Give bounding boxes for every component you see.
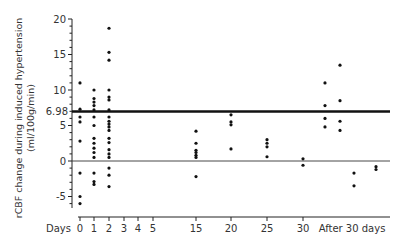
data-point xyxy=(194,151,197,154)
data-point xyxy=(92,183,95,186)
data-point xyxy=(265,138,268,141)
data-point xyxy=(107,185,110,188)
x-tick-label: 4 xyxy=(135,223,141,234)
data-point xyxy=(352,184,355,187)
data-point xyxy=(107,98,110,101)
data-point xyxy=(194,156,197,159)
x-tick-label: 2 xyxy=(106,223,112,234)
data-point xyxy=(338,129,341,132)
data-point xyxy=(323,125,326,128)
data-point xyxy=(92,180,95,183)
data-point xyxy=(374,168,377,171)
data-point xyxy=(107,141,110,144)
data-point xyxy=(229,120,232,123)
data-point xyxy=(107,96,110,99)
data-point xyxy=(107,51,110,54)
data-point xyxy=(78,120,81,123)
data-point xyxy=(265,155,268,158)
axes: -5051015206.9801234515202530After 30 day… xyxy=(46,14,390,235)
y-tick-label: -5 xyxy=(56,191,66,202)
data-point xyxy=(301,157,304,160)
data-point xyxy=(107,129,110,132)
y-tick-label: 20 xyxy=(53,14,66,25)
data-point xyxy=(92,142,95,145)
data-point xyxy=(78,195,81,198)
x-tick-label: 20 xyxy=(225,223,238,234)
x-tick-label: 15 xyxy=(190,223,203,234)
data-point xyxy=(78,202,81,205)
data-point xyxy=(107,156,110,159)
data-point xyxy=(78,140,81,143)
data-point xyxy=(194,175,197,178)
data-point xyxy=(92,104,95,107)
data-point xyxy=(338,120,341,123)
data-point xyxy=(107,125,110,128)
data-point xyxy=(323,104,326,107)
data-point xyxy=(92,115,95,118)
data-point xyxy=(107,137,110,140)
x-tick-label: 30 xyxy=(297,223,310,234)
data-point xyxy=(92,97,95,100)
data-point xyxy=(78,171,81,174)
data-point xyxy=(107,152,110,155)
y-axis-title: rCBF change during induced hypertension xyxy=(13,18,24,218)
data-point xyxy=(338,64,341,67)
reference-line-label: 6.98 xyxy=(46,106,68,117)
data-point xyxy=(229,123,232,126)
x-tick-label: 1 xyxy=(91,223,97,234)
x-tick-label: 0 xyxy=(77,223,83,234)
data-point xyxy=(107,148,110,151)
scatter-chart: -5051015206.9801234515202530After 30 day… xyxy=(0,0,409,242)
y-tick-label: 15 xyxy=(53,49,66,60)
x-tick-label: 25 xyxy=(261,223,274,234)
x-tick-label: 5 xyxy=(150,223,156,234)
data-point xyxy=(107,27,110,30)
data-point xyxy=(229,147,232,150)
data-point xyxy=(107,167,110,170)
data-point xyxy=(194,142,197,145)
data-point xyxy=(301,164,304,167)
data-point xyxy=(338,99,341,102)
data-point xyxy=(78,81,81,84)
data-point xyxy=(194,130,197,133)
data-points xyxy=(78,27,377,206)
data-point xyxy=(107,59,110,62)
y-tick-label: 10 xyxy=(53,85,66,96)
data-point xyxy=(92,108,95,111)
data-point xyxy=(92,171,95,174)
data-point xyxy=(78,108,81,111)
data-point xyxy=(92,137,95,140)
data-point xyxy=(107,108,110,111)
data-point xyxy=(107,88,110,91)
data-point xyxy=(92,156,95,159)
x-tick-label: 3 xyxy=(121,223,127,234)
data-point xyxy=(265,145,268,148)
data-point xyxy=(92,100,95,103)
data-point xyxy=(92,88,95,91)
data-point xyxy=(107,120,110,123)
data-point xyxy=(78,115,81,118)
x-tick-label-after: After 30 days xyxy=(319,223,386,234)
data-point xyxy=(92,151,95,154)
data-point xyxy=(265,142,268,145)
y-tick-label: 5 xyxy=(60,120,66,131)
y-axis-unit: (ml/100g/min) xyxy=(25,84,36,152)
data-point xyxy=(323,81,326,84)
data-point xyxy=(374,165,377,168)
data-point xyxy=(352,171,355,174)
y-tick-label: 0 xyxy=(60,156,66,167)
x-axis-title: Days xyxy=(46,223,71,234)
data-point xyxy=(92,124,95,127)
data-point xyxy=(229,113,232,116)
data-point xyxy=(107,115,110,118)
data-point xyxy=(92,147,95,150)
data-point xyxy=(107,174,110,177)
data-point xyxy=(107,122,110,125)
data-point xyxy=(323,117,326,120)
